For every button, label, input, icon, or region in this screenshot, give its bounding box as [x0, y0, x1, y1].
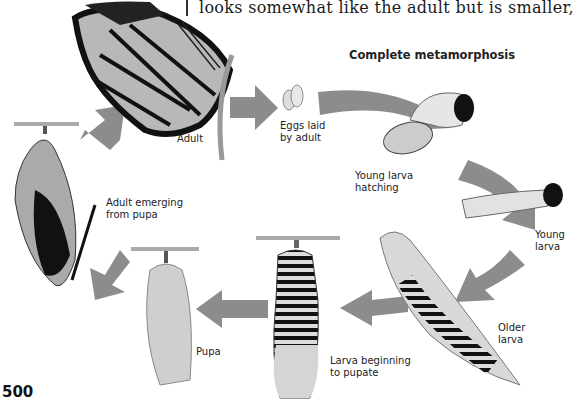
figure-title: Complete metamorphosis	[349, 48, 515, 62]
label-older-larva: Older larva	[498, 322, 525, 346]
page-number: 500	[2, 383, 33, 401]
label-young-larva-hatching: Young larva hatching	[355, 170, 413, 194]
larva-beginning-to-pupate	[256, 236, 340, 398]
label-eggs: Eggs laid by adult	[280, 120, 325, 144]
label-adult: Adult	[177, 133, 203, 145]
adult-emerging-from-pupa	[14, 122, 95, 286]
label-young-larva: Young larva	[535, 229, 565, 253]
pupa	[131, 247, 199, 385]
label-pupa: Pupa	[196, 346, 221, 358]
eggs	[283, 85, 303, 110]
label-larva-beginning-to-pupate: Larva beginning to pupate	[330, 355, 411, 379]
label-adult-emerging: Adult emerging from pupa	[106, 197, 183, 221]
